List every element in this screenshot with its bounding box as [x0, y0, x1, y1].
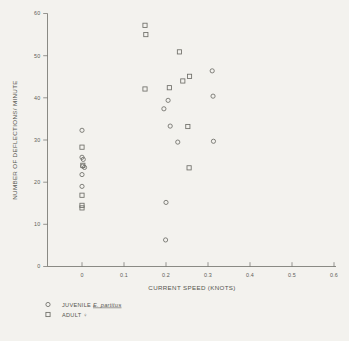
data-point-juvenile: [176, 140, 180, 144]
data-point-adult: [80, 206, 84, 210]
x-tick-label: 0.1: [120, 272, 128, 278]
data-point-juvenile: [163, 238, 167, 242]
data-point-adult: [80, 145, 84, 149]
data-point-juvenile: [80, 172, 84, 176]
caption-strip: [0, 328, 349, 341]
data-point-adult: [143, 87, 147, 91]
series-adult-points: [80, 23, 192, 210]
data-point-adult: [187, 74, 191, 78]
x-tick-label: 0.4: [246, 272, 254, 278]
data-point-juvenile: [210, 69, 214, 73]
data-point-juvenile: [80, 184, 84, 188]
data-point-adult: [167, 86, 171, 90]
x-tick-label: 0.3: [204, 272, 212, 278]
y-axis-tick-labels: 0 10 20 30 40 50 60: [34, 10, 40, 269]
data-point-adult: [143, 23, 147, 27]
x-tick-label: 0.6: [330, 272, 338, 278]
scatter-plot-figure: 0 10 20 30 40 50 60 NUMBER OF DEFLECTION…: [0, 0, 349, 341]
legend-square-open-icon: [46, 312, 50, 316]
legend-label-adult: ADULT ♀: [62, 312, 88, 318]
x-tick-label: 0: [80, 272, 83, 278]
legend-juvenile-prefix: JUVENILE: [62, 302, 93, 308]
x-tick-label: 0.5: [288, 272, 296, 278]
data-point-juvenile: [166, 98, 170, 102]
data-point-juvenile: [162, 107, 166, 111]
data-point-adult: [187, 166, 191, 170]
y-axis: 0 10 20 30 40 50 60 NUMBER OF DEFLECTION…: [11, 10, 48, 269]
x-axis-ticks: [82, 262, 334, 266]
x-axis-tick-labels: 0 0.1 0.2 0.3 0.4 0.5 0.6: [80, 272, 338, 278]
data-point-adult: [80, 193, 84, 197]
y-tick-label: 50: [34, 53, 40, 59]
y-tick-label: 60: [34, 10, 40, 16]
y-tick-label: 30: [34, 137, 40, 143]
data-point-adult: [181, 79, 185, 83]
legend-juvenile-species: E. partitus: [93, 302, 121, 308]
data-point-juvenile: [164, 200, 168, 204]
data-point-juvenile: [80, 128, 84, 132]
data-point-adult: [144, 32, 148, 36]
legend-label-juvenile: JUVENILE E. partitus: [62, 302, 121, 308]
legend-circle-open-icon: [46, 302, 50, 306]
data-point-adult: [186, 124, 190, 128]
data-point-juvenile: [168, 124, 172, 128]
x-axis-title: CURRENT SPEED (KNOTS): [148, 284, 235, 291]
x-tick-label: 0.2: [162, 272, 170, 278]
y-tick-label: 40: [34, 95, 40, 101]
y-axis-ticks: [43, 14, 47, 267]
series-juvenile-points: [80, 69, 216, 242]
female-symbol-icon: ♀: [83, 312, 88, 318]
data-point-juvenile: [211, 139, 215, 143]
legend-adult-prefix: ADULT: [62, 312, 83, 318]
y-axis-title: NUMBER OF DEFLECTIONS/ MINUTE: [11, 80, 18, 199]
y-tick-label: 20: [34, 179, 40, 185]
legend: JUVENILE E. partitus ADULT ♀: [46, 302, 122, 318]
y-tick-label: 10: [34, 221, 40, 227]
data-point-juvenile: [211, 94, 215, 98]
y-tick-label: 0: [37, 263, 40, 269]
x-axis: 0 0.1 0.2 0.3 0.4 0.5 0.6 CURRENT SPEED …: [48, 262, 339, 291]
data-point-adult: [80, 203, 84, 207]
data-point-adult: [177, 50, 181, 54]
